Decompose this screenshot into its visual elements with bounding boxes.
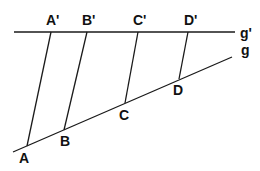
label-point-a-prime: A' bbox=[46, 12, 59, 28]
label-g: g bbox=[241, 42, 250, 58]
label-point-d-prime: D' bbox=[184, 12, 197, 28]
label-g-prime: g' bbox=[240, 25, 252, 41]
label-point-b: B bbox=[60, 133, 70, 149]
label-point-c-prime: C' bbox=[133, 12, 146, 28]
diagram-canvas: g' g A B C D A' B' C' D' bbox=[0, 0, 260, 171]
projection-line-a bbox=[27, 32, 51, 146]
label-point-b-prime: B' bbox=[82, 12, 95, 28]
line-g bbox=[13, 57, 232, 152]
label-point-d: D bbox=[173, 82, 183, 98]
label-point-c: C bbox=[119, 107, 129, 123]
projection-line-c bbox=[125, 32, 138, 103]
projection-line-b bbox=[64, 32, 87, 130]
projection-line-d bbox=[179, 32, 188, 79]
label-point-a: A bbox=[19, 150, 29, 166]
